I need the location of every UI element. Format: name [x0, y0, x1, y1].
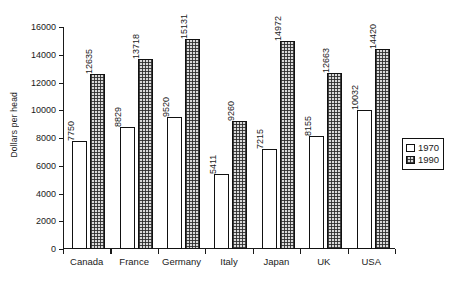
y-axis-tick-label: 14000: [31, 50, 56, 60]
bar-value-label: 13718: [132, 34, 141, 59]
bar-group: 815512663: [300, 27, 347, 249]
bar-value-label: 7215: [256, 129, 265, 149]
x-axis-tick: [110, 249, 111, 254]
bar-value-label: 10032: [351, 85, 360, 110]
bar-value-label: 12635: [84, 49, 93, 74]
x-axis-tick: [395, 249, 396, 254]
y-axis-tick-label: 16000: [31, 22, 56, 32]
bar-canada-1990[interactable]: 12635: [90, 74, 105, 249]
bar-value: 14972: [278, 29, 287, 54]
bar-value-label: 14420: [369, 24, 378, 49]
legend-item-1970[interactable]: 1970: [406, 142, 439, 154]
x-axis-tick: [158, 249, 159, 254]
bar-italy-1970[interactable]: 5411: [214, 174, 229, 249]
x-axis-label-france: France: [119, 256, 149, 267]
bar-uk-1970[interactable]: 8155: [309, 136, 324, 249]
bar-usa-1990[interactable]: 14420: [375, 49, 390, 249]
bar-germany-1990[interactable]: 15131: [185, 39, 200, 249]
bar-value: 12635: [89, 61, 98, 86]
legend-swatch-1970-icon: [406, 144, 415, 152]
bar-japan-1990[interactable]: 14972: [280, 41, 295, 249]
x-axis-label-uk: UK: [317, 256, 330, 267]
bar-uk-1990[interactable]: 12663: [327, 73, 342, 249]
x-axis-tick: [348, 249, 349, 254]
bar-value: 9260: [231, 111, 240, 131]
legend-label-1970: 1970: [418, 143, 439, 153]
plot-area: 0200040006000800010000120001400016000 77…: [63, 27, 395, 249]
y-axis-title: Dollars per head: [6, 0, 22, 250]
y-axis-tick-label: 8000: [36, 133, 56, 143]
bar-chart: Dollars per head 02000400060008000100001…: [0, 0, 459, 290]
bar-value-label: 8829: [114, 106, 123, 126]
x-axis-tick: [300, 249, 301, 254]
y-axis-tick-label: 6000: [36, 161, 56, 171]
bar-germany-1970[interactable]: 9520: [167, 117, 182, 249]
legend-item-1990[interactable]: 1990: [406, 154, 439, 166]
bar-value: 10032: [355, 97, 364, 122]
bar-france-1990[interactable]: 13718: [138, 59, 153, 249]
x-axis-tick: [63, 249, 64, 254]
x-axis-tick: [253, 249, 254, 254]
bar-value-label: 14972: [274, 16, 283, 41]
x-axis-label-italy: Italy: [220, 256, 237, 267]
bar-value-label: 7750: [66, 121, 75, 141]
bar-value: 12663: [326, 61, 335, 86]
bar-usa-1970[interactable]: 10032: [357, 110, 372, 249]
x-axis-label-canada: Canada: [70, 256, 103, 267]
legend-label-1990: 1990: [418, 155, 439, 165]
bar-value: 8155: [308, 126, 317, 146]
y-axis-tick-label: 4000: [36, 189, 56, 199]
bar-italy-1990[interactable]: 9260: [232, 121, 247, 249]
legend-swatch-1990-icon: [406, 156, 415, 164]
bar-france-1970[interactable]: 8829: [120, 127, 135, 250]
x-axis-label-germany: Germany: [162, 256, 201, 267]
y-axis-tick-label: 12000: [31, 78, 56, 88]
x-axis-label-japan: Japan: [263, 256, 289, 267]
bar-group: 775012635: [63, 27, 110, 249]
bar-value: 7750: [71, 131, 80, 151]
bar-value: 8829: [118, 116, 127, 136]
bar-value-label: 15131: [179, 14, 188, 39]
bar-value-label: 9260: [226, 101, 235, 121]
bar-group: 952015131: [158, 27, 205, 249]
x-axis-labels: CanadaFranceGermanyItalyJapanUKUSA: [63, 256, 395, 272]
y-axis-tick-label: 10000: [31, 105, 56, 115]
y-axis-tick-label: 0: [51, 244, 56, 254]
bar-group: 721514972: [253, 27, 300, 249]
bar-value: 5411: [213, 164, 222, 183]
legend: 1970 1990: [402, 138, 444, 170]
bar-value: 7215: [260, 139, 269, 159]
bar-value: 14420: [373, 36, 382, 61]
x-axis-label-usa: USA: [362, 256, 382, 267]
bar-group: 882913718: [110, 27, 157, 249]
bar-value: 13718: [136, 46, 145, 71]
bar-group: 54119260: [205, 27, 252, 249]
bar-canada-1970[interactable]: 7750: [72, 141, 87, 249]
bar-value-label: 9520: [161, 97, 170, 117]
y-axis-title-text: Dollars per head: [9, 92, 19, 158]
bar-value-label: 5411: [208, 155, 217, 174]
bar-value-label: 12663: [321, 48, 330, 73]
bar-group: 1003214420: [348, 27, 395, 249]
bar-value: 9520: [166, 107, 175, 127]
x-axis-tick: [205, 249, 206, 254]
y-axis-tick-label: 2000: [36, 216, 56, 226]
bar-value-label: 8155: [303, 116, 312, 136]
bar-value: 15131: [184, 27, 193, 52]
bar-japan-1970[interactable]: 7215: [262, 149, 277, 249]
